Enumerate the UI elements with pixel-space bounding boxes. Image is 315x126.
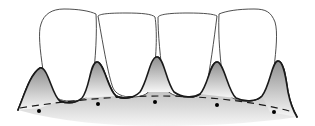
dental-diagram bbox=[0, 0, 315, 126]
dot-3 bbox=[153, 100, 157, 104]
dot-5 bbox=[272, 110, 276, 114]
dot-2 bbox=[96, 102, 100, 106]
dot-1 bbox=[37, 109, 41, 113]
dot-4 bbox=[215, 103, 219, 107]
